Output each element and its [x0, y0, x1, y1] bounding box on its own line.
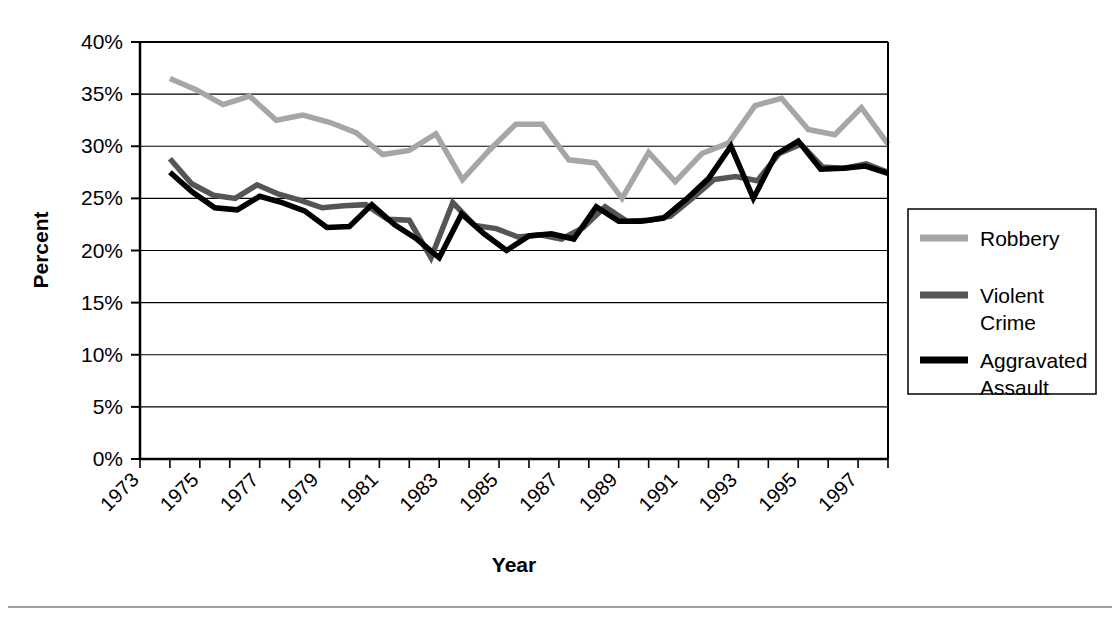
- y-tick-labels: 0%5%10%15%20%25%30%35%40%: [81, 30, 123, 470]
- y-tick-label: 5%: [93, 395, 123, 418]
- y-tick-label: 25%: [81, 186, 123, 209]
- y-tick-label: 0%: [93, 447, 123, 470]
- x-tick-label: 1995: [754, 468, 801, 515]
- chart-figure: 0%5%10%15%20%25%30%35%40% 19731975197719…: [0, 0, 1120, 621]
- y-axis-title: Percent: [29, 211, 52, 288]
- x-tick-marks: [140, 459, 888, 468]
- x-tick-label: 1981: [335, 468, 382, 515]
- x-tick-label: 1985: [455, 468, 502, 515]
- y-tick-label: 35%: [81, 82, 123, 105]
- x-tick-label: 1991: [634, 468, 681, 515]
- y-tick-marks: [131, 42, 140, 459]
- y-tick-label: 40%: [81, 30, 123, 53]
- x-axis-title: Year: [492, 553, 536, 576]
- y-tick-label: 10%: [81, 343, 123, 366]
- legend-label-aggravated-assault: Assault: [980, 376, 1049, 399]
- legend-label-robbery: Robbery: [980, 227, 1060, 250]
- y-tick-label: 30%: [81, 134, 123, 157]
- legend-label-violent-crime: Violent: [980, 284, 1044, 307]
- x-tick-labels: 1973197519771979198119831985198719891991…: [96, 468, 861, 515]
- x-tick-label: 1983: [395, 468, 442, 515]
- y-tick-label: 20%: [81, 239, 123, 262]
- line-chart: 0%5%10%15%20%25%30%35%40% 19731975197719…: [0, 0, 1120, 621]
- legend-label-aggravated-assault: Aggravated: [980, 349, 1087, 372]
- x-tick-label: 1975: [156, 468, 203, 515]
- x-tick-label: 1977: [215, 468, 262, 515]
- x-tick-label: 1989: [575, 468, 622, 515]
- x-tick-label: 1987: [515, 468, 562, 515]
- legend-label-violent-crime: Crime: [980, 311, 1036, 334]
- x-tick-label: 1997: [814, 468, 861, 515]
- x-tick-label: 1979: [275, 468, 322, 515]
- x-tick-label: 1993: [694, 468, 741, 515]
- x-tick-label: 1973: [96, 468, 143, 515]
- y-tick-label: 15%: [81, 291, 123, 314]
